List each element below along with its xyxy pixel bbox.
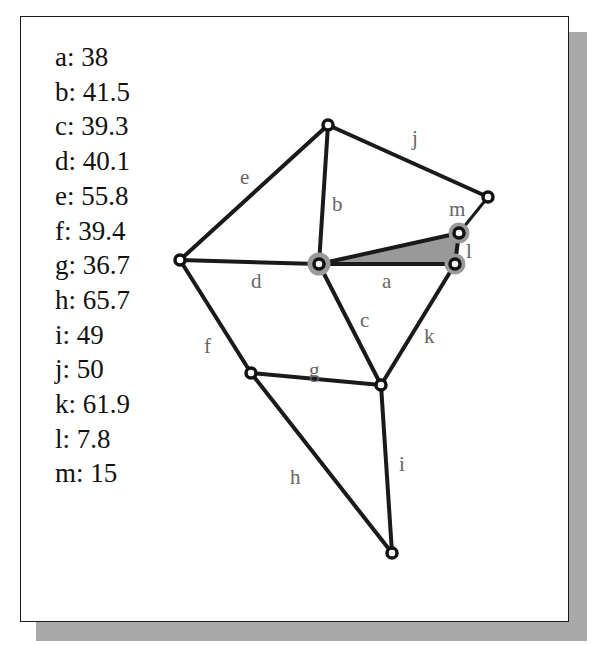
edge-label-a: a bbox=[382, 269, 392, 293]
edge-label-i: i bbox=[399, 452, 405, 476]
edge-d bbox=[180, 260, 319, 264]
edge-label-e: e bbox=[240, 165, 249, 189]
edge-label-b: b bbox=[332, 192, 343, 216]
edge-j bbox=[328, 125, 488, 197]
edge-c bbox=[319, 264, 381, 385]
node-l-bottom bbox=[450, 259, 460, 269]
edge-label-g: g bbox=[309, 358, 320, 382]
edge-f bbox=[180, 260, 251, 373]
node-left bbox=[175, 255, 185, 265]
edge-label-c: c bbox=[360, 308, 369, 332]
graph-nodes bbox=[175, 120, 493, 558]
edge-h bbox=[251, 373, 392, 553]
node-lower-left bbox=[246, 368, 256, 378]
edge-labels: a b c d e f g h i j k l m bbox=[204, 126, 472, 489]
edge-e bbox=[180, 125, 328, 260]
node-lower-mid bbox=[376, 380, 386, 390]
graph-diagram: a b c d e f g h i j k l m bbox=[0, 0, 591, 645]
edge-label-d: d bbox=[251, 269, 262, 293]
graph-edges bbox=[180, 125, 488, 553]
edge-label-m: m bbox=[449, 197, 465, 221]
node-center bbox=[314, 259, 324, 269]
edge-label-k: k bbox=[424, 324, 435, 348]
node-far-right bbox=[483, 192, 493, 202]
edge-label-l: l bbox=[466, 239, 472, 263]
edge-k bbox=[381, 264, 455, 385]
edge-label-j: j bbox=[411, 126, 418, 150]
node-l-top bbox=[454, 228, 464, 238]
edge-label-f: f bbox=[204, 334, 211, 358]
edge-label-h: h bbox=[290, 465, 301, 489]
edge-i bbox=[381, 385, 392, 553]
node-bottom bbox=[387, 548, 397, 558]
node-top bbox=[323, 120, 333, 130]
edge-b bbox=[319, 125, 328, 264]
